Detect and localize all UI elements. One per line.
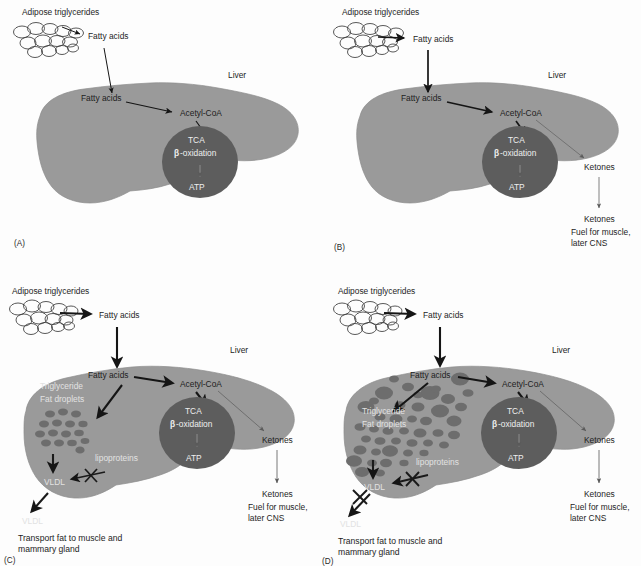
- adipose-triglycerides-label: Adipose triglycerides: [338, 286, 415, 296]
- atp-label: ATP: [509, 182, 525, 192]
- arrow-adipose-to-fatty-acids: [60, 313, 90, 314]
- fatty-acids-internal-label: Fatty acids: [88, 370, 129, 380]
- tca-label: TCA: [508, 135, 525, 145]
- panel-label-a: (A): [14, 239, 25, 248]
- lipoproteins-label: lipoproteins: [416, 457, 459, 467]
- adipose-cluster-icon: [10, 300, 79, 335]
- fatty-acids-external-label: Fatty acids: [413, 34, 454, 44]
- svg-text:β: β: [170, 419, 175, 429]
- tca-label: TCA: [507, 406, 524, 416]
- liver-label: Liver: [228, 70, 246, 80]
- lipoproteins-label: lipoproteins: [95, 453, 138, 463]
- ketones-external-label: Ketones: [262, 489, 293, 499]
- liver-label: Liver: [548, 70, 566, 80]
- tca-label: TCA: [188, 135, 205, 145]
- ketones-fuel-line2: later CNS: [570, 513, 607, 523]
- fatty-acids-external-label: Fatty acids: [99, 310, 140, 320]
- ketones-external-label: Ketones: [584, 214, 615, 224]
- acetyl-coa-label: Acetyl-CoA: [502, 379, 544, 389]
- ketones-internal-label: Ketones: [584, 162, 615, 172]
- acetyl-coa-label: Acetyl-CoA: [180, 108, 222, 118]
- ketones-fuel-line1: Fuel for muscle,: [570, 502, 630, 512]
- ketones-internal-label: Ketones: [262, 435, 293, 445]
- transport-caption-line1: Transport fat to muscle and: [18, 533, 123, 543]
- liver-body: [357, 83, 619, 203]
- acetyl-coa-label: Acetyl-CoA: [500, 108, 542, 118]
- svg-text:β: β: [174, 148, 179, 158]
- adipose-triglycerides-label: Adipose triglycerides: [22, 7, 99, 17]
- fat-droplets-label: Fat droplets: [40, 394, 84, 404]
- fatty-acids-internal-label: Fatty acids: [401, 93, 442, 103]
- triglyceride-label: Triglyceride: [362, 406, 405, 416]
- liver-body: [37, 83, 299, 203]
- liver-label: Liver: [552, 345, 570, 355]
- fatty-acids-internal-label: Fatty acids: [410, 370, 451, 380]
- ketones-external-label: Ketones: [584, 489, 615, 499]
- arrow-vldl-export: [32, 493, 48, 511]
- vldl-external-label: VLDL: [22, 516, 43, 526]
- panel-d-fatty-liver: Adipose triglycerides Fatty acids Liver: [320, 283, 640, 566]
- tca-label: TCA: [185, 406, 202, 416]
- atp-label: ATP: [508, 453, 524, 463]
- transport-caption-line2: mammary gland: [18, 544, 80, 554]
- beta-oxidation-label: β -oxidation: [174, 148, 217, 158]
- transport-caption-line1: Transport fat to muscle and: [338, 536, 443, 546]
- adipose-cluster-icon: [334, 300, 403, 335]
- fatty-acids-external-label: Fatty acids: [88, 31, 129, 41]
- ketones-internal-label: Ketones: [584, 435, 615, 445]
- panel-label-c: (C): [4, 556, 16, 565]
- svg-text:-oxidation: -oxidation: [498, 419, 535, 429]
- arrow-adipose-to-fatty-acids: [384, 313, 414, 314]
- vldl-external-label: VLDL: [340, 519, 361, 529]
- svg-text:β: β: [494, 148, 499, 158]
- beta-oxidation-label: β -oxidation: [170, 419, 213, 429]
- panel-label-b: (B): [334, 243, 345, 252]
- beta-oxidation-label: β -oxidation: [494, 148, 537, 158]
- svg-text:β: β: [492, 419, 497, 429]
- adipose-cluster-icon: [334, 23, 404, 58]
- atp-label: ATP: [186, 453, 202, 463]
- transport-caption-line2: mammary gland: [338, 547, 400, 557]
- panel-label-d: (D): [322, 557, 334, 566]
- beta-oxidation-label: β -oxidation: [492, 419, 535, 429]
- panel-c-vldl-export-blocked: Adipose triglycerides Fatty acids Liver …: [0, 283, 320, 566]
- blocked-x-vldl-export: [353, 490, 367, 504]
- triglyceride-label: Triglyceride: [40, 381, 83, 391]
- svg-text:-oxidation: -oxidation: [500, 148, 537, 158]
- ketones-fuel-line2: later CNS: [571, 238, 608, 248]
- svg-text:-oxidation: -oxidation: [180, 148, 217, 158]
- vldl-internal-label: VLDL: [44, 477, 65, 487]
- ketones-fuel-line1: Fuel for muscle,: [248, 502, 308, 512]
- fatty-acids-internal-label: Fatty acids: [81, 93, 122, 103]
- ketones-fuel-line1: Fuel for muscle,: [571, 227, 631, 237]
- liver-label: Liver: [230, 345, 248, 355]
- atp-label: ATP: [189, 182, 205, 192]
- metabolism-figure: Adipose triglycerides Fatty acids Liver …: [0, 0, 641, 566]
- acetyl-coa-label: Acetyl-CoA: [180, 379, 222, 389]
- adipose-triglycerides-label: Adipose triglycerides: [12, 286, 89, 296]
- svg-text:-oxidation: -oxidation: [176, 419, 213, 429]
- panel-a-fed-state: Adipose triglycerides Fatty acids Liver …: [0, 0, 320, 283]
- panel-b-ketogenesis: Adipose triglycerides Fatty acids Liver …: [320, 0, 640, 283]
- adipose-cluster-icon: [14, 23, 84, 58]
- ketones-fuel-line2: later CNS: [248, 513, 285, 523]
- fatty-acids-external-label: Fatty acids: [423, 310, 464, 320]
- adipose-triglycerides-label: Adipose triglycerides: [342, 7, 419, 17]
- fat-droplets-label: Fat droplets: [362, 419, 406, 429]
- arrow-adipose-to-fatty-acids: [378, 37, 404, 38]
